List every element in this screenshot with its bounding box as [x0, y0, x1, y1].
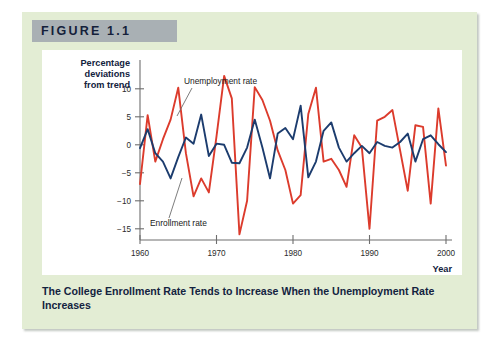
- figure-root: FIGURE 1.1 1050−5−10−1519601970198019902…: [0, 0, 502, 348]
- y-axis-tick-label: −5: [122, 169, 132, 178]
- x-axis-tick-label: 1970: [207, 249, 226, 258]
- annotation-label-enrollment-rate: Enrollment rate: [150, 218, 207, 228]
- series-line-enrollment-rate: [140, 106, 446, 179]
- y-axis-title-line: deviations: [85, 69, 130, 79]
- y-axis-tick-label: −15: [117, 225, 131, 234]
- y-axis-tick-label: 5: [126, 113, 131, 122]
- y-axis-title-line: from trend: [84, 80, 130, 90]
- x-axis-title: Year: [433, 264, 453, 274]
- figure-number-label: FIGURE 1.1: [32, 24, 131, 38]
- y-axis-tick-label: 0: [126, 141, 131, 150]
- y-axis-tick-label: −10: [117, 197, 131, 206]
- x-axis-tick-label: 2000: [437, 249, 456, 258]
- x-axis-tick-label: 1960: [131, 249, 150, 258]
- figure-panel: FIGURE 1.1 1050−5−10−1519601970198019902…: [22, 12, 477, 329]
- x-axis-tick-label: 1980: [284, 249, 303, 258]
- figure-banner: FIGURE 1.1: [32, 20, 177, 42]
- annotation-leader-line: [169, 178, 182, 218]
- annotation-label-unemployment-rate: Unemployment rate: [184, 76, 257, 86]
- y-axis-title-line: Percentage: [80, 58, 130, 68]
- chart-plot-card: 1050−5−10−1519601970198019902000Percenta…: [42, 50, 462, 275]
- x-axis-tick-label: 1990: [360, 249, 379, 258]
- line-chart: 1050−5−10−1519601970198019902000Percenta…: [42, 50, 462, 275]
- figure-caption: The College Enrollment Rate Tends to Inc…: [42, 284, 457, 313]
